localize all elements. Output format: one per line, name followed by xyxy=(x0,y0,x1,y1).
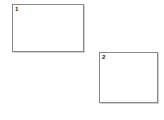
region-box-1[interactable]: 1 xyxy=(12,4,84,52)
region-label-2: 2 xyxy=(102,54,105,61)
region-box-2[interactable]: 2 xyxy=(99,52,158,103)
diagram-canvas: 1 2 xyxy=(0,0,164,120)
region-label-1: 1 xyxy=(15,6,18,13)
